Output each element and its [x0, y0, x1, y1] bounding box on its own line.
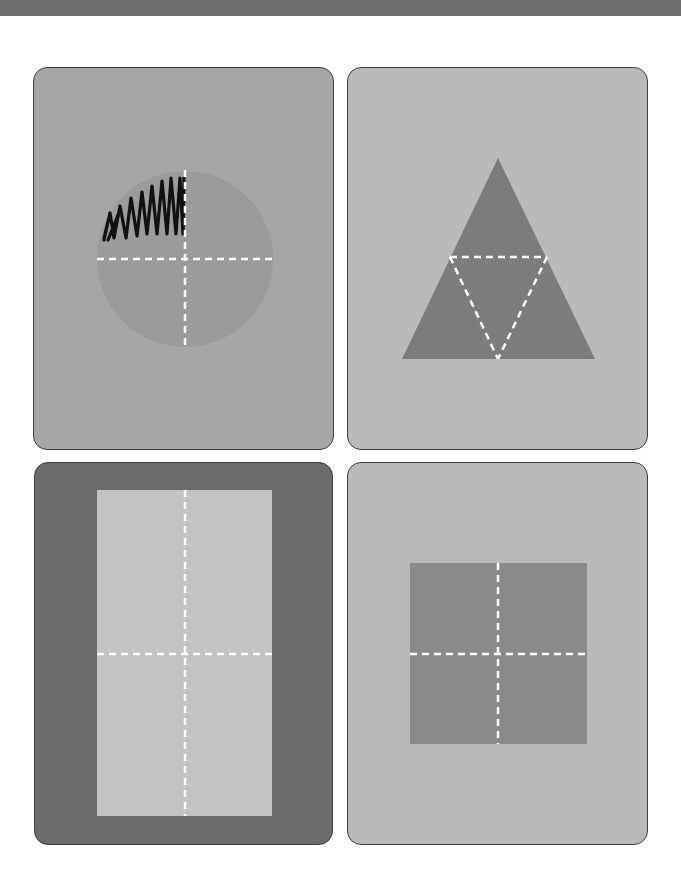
triangle-card: [347, 67, 648, 450]
rectangle-card: [34, 462, 333, 845]
rectangle-diagram: [35, 463, 333, 845]
triangle-diagram: [348, 68, 648, 450]
circle-card: [33, 67, 334, 450]
top-bar: [0, 0, 681, 16]
circle-diagram: [34, 68, 334, 450]
triangle-shape: [402, 158, 595, 359]
square-card: [347, 462, 648, 845]
square-diagram: [348, 463, 648, 845]
